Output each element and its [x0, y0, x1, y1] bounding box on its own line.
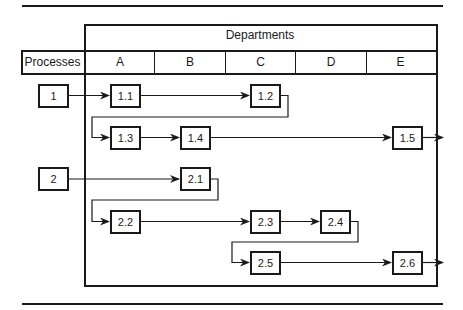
step-box-2.2: 2.2	[110, 210, 141, 234]
step-box-1.4: 1.4	[180, 126, 211, 150]
step-box-2.6: 2.6	[392, 251, 423, 275]
process-box-1: 1	[38, 84, 69, 108]
step-box-1.5: 1.5	[392, 126, 423, 150]
process-box-2: 2	[38, 167, 69, 191]
step-box-2.5: 2.5	[250, 251, 281, 275]
step-box-2.3: 2.3	[250, 210, 281, 234]
step-box-1.2: 1.2	[250, 84, 281, 108]
step-box-2.1: 2.1	[180, 167, 211, 191]
step-box-1.1: 1.1	[110, 84, 141, 108]
step-box-2.4: 2.4	[320, 210, 351, 234]
step-box-1.3: 1.3	[110, 126, 141, 150]
